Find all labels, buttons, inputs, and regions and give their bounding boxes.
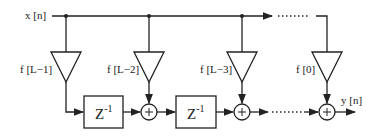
junction-dot-2: [147, 14, 151, 18]
output-label: y [n]: [341, 95, 362, 106]
coef-label-4: f [0]: [296, 64, 315, 75]
junction-dot-1: [64, 14, 68, 18]
input-label: x [n]: [25, 10, 46, 21]
plus-icon-1: [145, 108, 153, 116]
path-gain1-to-delay1: [66, 82, 83, 112]
coef-label-1: f [L−1]: [20, 64, 52, 75]
delay-label-1: Z-1: [95, 104, 113, 122]
coef-label-2: f [L−2]: [107, 64, 139, 75]
plus-icon-3: [323, 108, 331, 116]
gain-triangle-4: [312, 52, 342, 82]
delay-label-2: Z-1: [187, 104, 205, 122]
junction-dot-3: [240, 14, 244, 18]
input-bus-tail: [316, 16, 327, 52]
gain-triangle-1: [51, 52, 81, 82]
plus-icon-2: [238, 108, 246, 116]
fir-filter-diagram: x [n] f [L−1] f [L−2] f [L−3] f [0] y [n…: [0, 0, 380, 136]
coef-label-3: f [L−3]: [200, 64, 232, 75]
